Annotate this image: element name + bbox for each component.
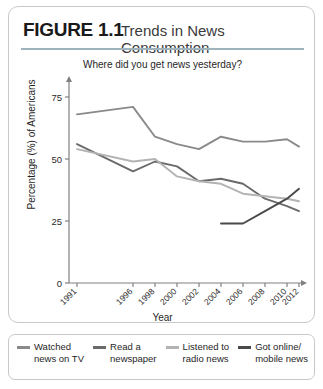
chart-axes xyxy=(65,76,307,287)
svg-text:2008: 2008 xyxy=(246,286,267,307)
svg-text:0: 0 xyxy=(57,278,62,289)
legend-item-0: Watchednews on TV xyxy=(17,341,84,365)
legend-item-3: Got online/mobile news xyxy=(238,341,308,365)
legend-line-icon xyxy=(238,346,251,349)
svg-text:75: 75 xyxy=(51,92,62,103)
series-line-2 xyxy=(77,149,299,201)
svg-text:2006: 2006 xyxy=(224,286,245,307)
series-line-1 xyxy=(77,144,299,211)
legend-item-2: Listened toradio news xyxy=(166,341,229,365)
svg-text:1991: 1991 xyxy=(58,286,79,307)
chart-legend: Watchednews on TVRead anewspaperListened… xyxy=(8,334,315,380)
svg-text:1998: 1998 xyxy=(136,286,157,307)
svg-text:2002: 2002 xyxy=(180,286,201,307)
y-axis-label: Percentage (%) of Americans xyxy=(26,75,37,215)
legend-label: Listened toradio news xyxy=(183,341,229,365)
legend-label: Read anewspaper xyxy=(110,341,156,365)
svg-text:2004: 2004 xyxy=(202,286,223,307)
chart-plot-area: 0255075199119961998200020022004200620082… xyxy=(9,7,316,324)
svg-text:1996: 1996 xyxy=(114,286,135,307)
legend-label: Watchednews on TV xyxy=(34,341,84,365)
figure-card: FIGURE 1.1 Trends in News Consumption Wh… xyxy=(8,6,315,323)
chart-tick-labels: 0255075199119961998200020022004200620082… xyxy=(51,92,300,307)
svg-text:2000: 2000 xyxy=(158,286,179,307)
x-axis-label: Year xyxy=(9,312,316,323)
legend-item-1: Read anewspaper xyxy=(93,341,156,365)
legend-label: Got online/mobile news xyxy=(255,341,308,365)
legend-line-icon xyxy=(93,346,106,349)
svg-text:50: 50 xyxy=(51,154,62,165)
legend-line-icon xyxy=(17,346,30,349)
line-chart-svg: 0255075199119961998200020022004200620082… xyxy=(9,7,316,324)
legend-line-icon xyxy=(166,346,179,349)
series-line-0 xyxy=(77,107,299,149)
chart-series-layer xyxy=(77,107,299,224)
svg-text:25: 25 xyxy=(51,216,62,227)
